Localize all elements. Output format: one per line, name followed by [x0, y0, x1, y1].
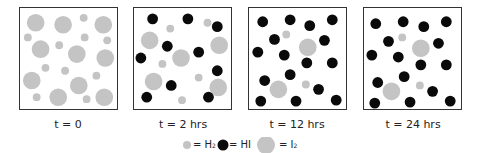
hi-molecule-icon — [441, 16, 452, 27]
hi-molecule-icon — [399, 71, 410, 82]
hi-molecule-icon — [327, 58, 338, 69]
hi-molecule-icon — [418, 21, 429, 32]
hi-molecule-icon — [398, 16, 409, 27]
caption-t12: t = 12 hrs — [242, 118, 352, 131]
hi-molecule-icon — [415, 59, 426, 70]
hi-molecule-icon — [405, 97, 416, 108]
h2-molecule-icon — [204, 19, 212, 27]
h2-molecule-icon — [103, 36, 111, 44]
h2-molecule-icon — [42, 64, 50, 72]
hi-molecule-icon — [135, 53, 146, 64]
hi-molecule-icon — [162, 41, 173, 52]
i2-molecule-icon — [141, 32, 159, 50]
panel-2 — [248, 7, 347, 110]
legend-hi-label: = HI — [229, 139, 251, 150]
h2-molecule-icon — [24, 34, 32, 42]
hi-molecule-icon — [166, 80, 177, 91]
i2-molecule-icon — [49, 88, 67, 106]
h2-molecule-icon — [416, 82, 424, 90]
hi-molecule-icon — [255, 96, 266, 107]
hi-molecule-icon — [269, 34, 280, 45]
hi-molecule-icon — [441, 59, 452, 70]
caption-t2: t = 2 hrs — [128, 118, 238, 131]
hi-molecule-icon — [259, 75, 270, 86]
legend-i2-label: = I2 — [279, 139, 297, 150]
i2-molecule-icon — [54, 16, 72, 34]
hi-molecule-icon — [331, 95, 342, 106]
h2-molecule-icon — [158, 60, 166, 68]
h2-molecule-icon — [398, 34, 406, 42]
i2-molecule-icon — [96, 49, 114, 67]
hi-molecule-icon — [369, 98, 380, 109]
i2-molecule-icon — [68, 45, 86, 63]
i2-molecule-icon — [94, 16, 112, 34]
i2-molecule-icon — [383, 83, 401, 101]
caption-t24: t = 24 hrs — [358, 118, 468, 131]
h2-molecule-icon — [302, 81, 310, 89]
hi-molecule-icon — [393, 52, 404, 63]
hi-molecule-icon — [319, 35, 330, 46]
i2-molecule-icon — [172, 49, 190, 67]
legend: = H2 = HI = I2 — [178, 137, 308, 153]
i2-molecule-icon — [270, 81, 288, 99]
hi-molecule-icon — [218, 140, 229, 151]
hi-molecule-icon — [327, 14, 338, 25]
hi-molecule-icon — [372, 77, 383, 88]
hi-molecule-icon — [301, 58, 312, 69]
hi-molecule-icon — [285, 69, 296, 80]
panel-3 — [363, 7, 462, 110]
panel-0 — [19, 7, 118, 110]
hi-molecule-icon — [366, 50, 377, 61]
hi-molecule-icon — [291, 96, 302, 107]
hi-molecule-icon — [445, 96, 456, 107]
h2-molecule-icon — [178, 96, 186, 104]
hi-molecule-icon — [203, 92, 214, 103]
h2-molecule-icon — [80, 14, 88, 22]
h2-molecule-icon — [55, 41, 63, 49]
i2-molecule-icon — [257, 137, 275, 153]
hi-molecule-icon — [183, 13, 194, 24]
hi-molecule-icon — [304, 20, 315, 31]
hi-molecule-icon — [257, 16, 268, 27]
hi-molecule-icon — [212, 21, 223, 32]
panel-1 — [133, 7, 232, 110]
i2-molecule-icon — [145, 73, 163, 91]
h2-molecule-icon — [195, 74, 203, 82]
hi-molecule-icon — [141, 92, 152, 103]
hi-molecule-icon — [252, 47, 263, 58]
h2-molecule-icon — [33, 93, 41, 101]
i2-molecule-icon — [23, 72, 41, 90]
caption-t0: t = 0 — [13, 118, 123, 131]
h2-molecule-icon — [282, 31, 290, 39]
i2-molecule-icon — [70, 77, 88, 95]
hi-molecule-icon — [370, 18, 381, 29]
hi-molecule-icon — [383, 36, 394, 47]
i2-molecule-icon — [95, 88, 113, 106]
i2-molecule-icon — [210, 36, 228, 54]
h2-molecule-icon — [61, 67, 69, 75]
hi-molecule-icon — [427, 86, 438, 97]
h2-molecule-icon — [166, 25, 174, 33]
hi-molecule-icon — [285, 14, 296, 25]
h2-molecule-icon — [93, 72, 101, 80]
h2-molecule-icon — [83, 95, 91, 103]
hi-molecule-icon — [147, 13, 158, 24]
i2-molecule-icon — [299, 38, 317, 56]
hi-molecule-icon — [279, 50, 290, 61]
h2-molecule-icon — [81, 34, 89, 42]
hi-molecule-icon — [193, 47, 204, 58]
i2-molecule-icon — [32, 40, 50, 58]
hi-molecule-icon — [433, 38, 444, 49]
hi-molecule-icon — [313, 84, 324, 95]
h2-molecule-icon — [183, 141, 191, 149]
hi-molecule-icon — [212, 65, 223, 76]
i2-molecule-icon — [412, 39, 430, 57]
legend-h2-label: = H2 — [193, 139, 216, 150]
i2-molecule-icon — [27, 14, 45, 32]
